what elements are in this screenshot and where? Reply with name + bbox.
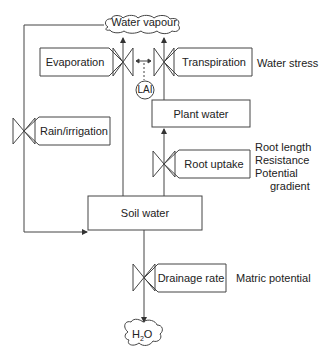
potential-annotation: Potential bbox=[255, 167, 298, 179]
rain-irrigation-label: Rain/irrigation bbox=[38, 125, 110, 137]
root-uptake-label: Root uptake bbox=[178, 158, 250, 170]
h2o-label: H2O bbox=[132, 328, 152, 345]
transpiration-label: Transpiration bbox=[178, 56, 250, 68]
lai-label: LAI bbox=[136, 84, 154, 96]
evaporation-label: Evaporation bbox=[42, 56, 108, 68]
drainage-rate-label: Drainage rate bbox=[156, 272, 226, 284]
plant-water-label: Plant water bbox=[152, 108, 250, 120]
root-length-annotation: Root length bbox=[255, 141, 311, 153]
soil-water-label: Soil water bbox=[88, 207, 202, 219]
water-stress-annotation: Water stress bbox=[257, 57, 318, 69]
water-vapour-label: Water vapour bbox=[108, 16, 180, 28]
resistance-annotation: Resistance bbox=[255, 154, 309, 166]
gradient-annotation: gradient bbox=[270, 180, 310, 192]
matric-potential-annotation: Matric potential bbox=[236, 272, 311, 284]
